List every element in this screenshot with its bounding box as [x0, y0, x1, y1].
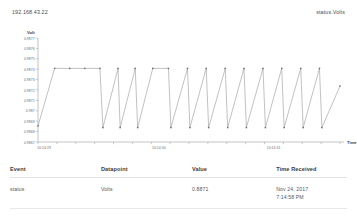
x-axis: 10:14:2910:14:3010:14:31 — [37, 142, 344, 150]
table-header-row: Event Datapoint Value Time Received — [10, 166, 347, 178]
column-header-value[interactable]: Value — [192, 166, 276, 178]
svg-text:0.9872: 0.9872 — [24, 89, 35, 93]
svg-text:0.9868: 0.9868 — [24, 130, 35, 134]
cell-event: status — [10, 178, 101, 209]
device-address-label: 192.168.43.22 — [12, 9, 48, 15]
svg-text:0.9875: 0.9875 — [24, 57, 35, 61]
column-header-event[interactable]: Event — [10, 166, 101, 178]
voltage-chart: 0.98770.98760.98750.98740.98730.98720.98… — [0, 24, 357, 164]
svg-text:0.9874: 0.9874 — [24, 68, 35, 72]
stream-name-label: status.Volts — [316, 9, 345, 15]
svg-text:0.9871: 0.9871 — [24, 99, 35, 103]
svg-text:0.9873: 0.9873 — [24, 78, 35, 82]
events-table-container: Event Datapoint Value Time Received stat… — [10, 166, 347, 209]
chart-canvas: 0.98770.98760.98750.98740.98730.98720.98… — [0, 24, 357, 164]
svg-text:0.9869: 0.9869 — [24, 120, 35, 124]
y-axis: 0.98770.98760.98750.98740.98730.98720.98… — [24, 37, 38, 145]
x-axis-title: Time — [347, 140, 357, 145]
time-received-clock: 7:14:58 PM — [276, 193, 347, 201]
y-axis-title: Volt — [27, 30, 35, 35]
page-header: 192.168.43.22 status.Volts — [0, 0, 357, 24]
cell-datapoint: Volts — [101, 178, 192, 209]
dashboard-page: 192.168.43.22 status.Volts 0.98770.98760… — [0, 0, 357, 216]
svg-text:10:14:30: 10:14:30 — [152, 146, 166, 150]
events-table: Event Datapoint Value Time Received stat… — [10, 166, 347, 209]
svg-text:0.9877: 0.9877 — [24, 37, 35, 41]
svg-text:0.9867: 0.9867 — [24, 141, 35, 145]
cell-value: 0.8871 — [192, 178, 276, 209]
time-received-date: Nov 24, 2017 — [276, 185, 347, 193]
events-table-body: status Volts 0.8871 Nov 24, 2017 7:14:58… — [10, 178, 347, 209]
svg-text:0.987: 0.987 — [26, 109, 35, 113]
column-header-datapoint[interactable]: Datapoint — [101, 166, 192, 178]
svg-text:10:14:29: 10:14:29 — [37, 146, 51, 150]
svg-text:0.9876: 0.9876 — [24, 47, 35, 51]
chart-series-line — [37, 68, 340, 129]
events-table-head: Event Datapoint Value Time Received — [10, 166, 347, 178]
column-header-time-received[interactable]: Time Received — [276, 166, 347, 178]
svg-text:10:14:31: 10:14:31 — [267, 146, 281, 150]
cell-time-received: Nov 24, 2017 7:14:58 PM — [276, 178, 347, 209]
table-row[interactable]: status Volts 0.8871 Nov 24, 2017 7:14:58… — [10, 178, 347, 209]
